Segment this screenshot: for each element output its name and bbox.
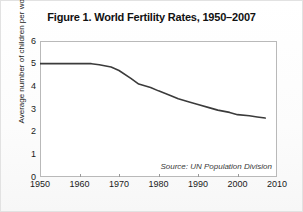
page-title: Figure 1. World Fertility Rates, 1950–20…: [0, 11, 303, 23]
x-tick-label-2000: 2000: [223, 180, 253, 189]
x-tick-label-1960: 1960: [65, 180, 95, 189]
x-tick-label-1980: 1980: [144, 180, 174, 189]
series-line-world-fertility: [40, 64, 265, 118]
x-tick-label-2010: 2010: [262, 180, 292, 189]
x-tick-label-1990: 1990: [183, 180, 213, 189]
x-tick-label-1950: 1950: [25, 180, 55, 189]
x-tick-mark-1960: [80, 174, 81, 177]
y-tick-label-4: 4: [22, 82, 36, 91]
y-tick-label-1: 1: [22, 150, 36, 159]
x-tick-mark-1970: [119, 174, 120, 177]
fertility-line-chart: [40, 41, 277, 177]
y-tick-label-5: 5: [22, 59, 36, 68]
y-tick-label-3: 3: [22, 105, 36, 114]
x-tick-mark-1980: [159, 174, 160, 177]
y-tick-label-2: 2: [22, 127, 36, 136]
y-tick-label-6: 6: [22, 37, 36, 46]
x-tick-mark-2000: [238, 174, 239, 177]
x-tick-mark-1990: [198, 174, 199, 177]
source-note: Source: UN Population Division: [120, 162, 272, 171]
x-tick-label-1970: 1970: [104, 180, 134, 189]
figure-page: Figure 1. World Fertility Rates, 1950–20…: [0, 0, 303, 212]
